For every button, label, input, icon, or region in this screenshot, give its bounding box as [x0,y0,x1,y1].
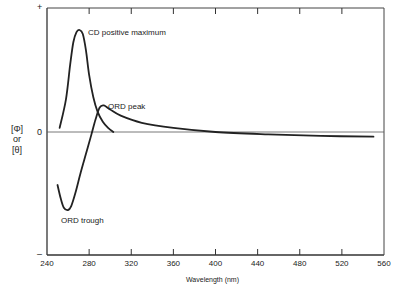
annotation-cd-positive-maximum: CD positive maximum [88,29,166,37]
x-axis-label: Wavelength (nm) [186,276,239,283]
y-minus-mark: – [37,250,42,259]
y-axis-label: [Φ] or [θ] [6,124,28,155]
x-tick-label: 240 [40,260,53,268]
y-label-phi: [Φ] [6,124,28,134]
x-tick-label: 400 [209,260,222,268]
y-label-or: or [6,134,28,144]
curve-cd [60,30,114,132]
data-curves [58,30,374,210]
y-zero-mark: 0 [37,128,42,137]
x-tick-label: 440 [251,260,264,268]
x-tick-label: 520 [335,260,348,268]
annotation-ord-trough: ORD trough [61,217,104,225]
y-plus-mark: + [37,3,42,12]
curve-ord [58,105,374,210]
x-tick-label: 360 [167,260,180,268]
x-tick-label: 480 [293,260,306,268]
x-tick-label: 560 [377,260,390,268]
y-label-theta: [θ] [6,145,28,155]
x-tick-label: 280 [82,260,95,268]
x-tick-label: 320 [125,260,138,268]
chart-canvas [0,0,397,288]
annotation-ord-peak: ORD peak [108,103,145,111]
